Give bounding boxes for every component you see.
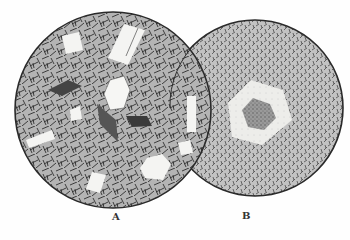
panel-label-b: B [242, 210, 251, 221]
panel-a [15, 12, 211, 208]
rock-texture-figure [0, 0, 350, 240]
field-of-view-a [15, 12, 211, 208]
phenocryst [187, 96, 196, 132]
panel-label-a: A [112, 211, 120, 222]
